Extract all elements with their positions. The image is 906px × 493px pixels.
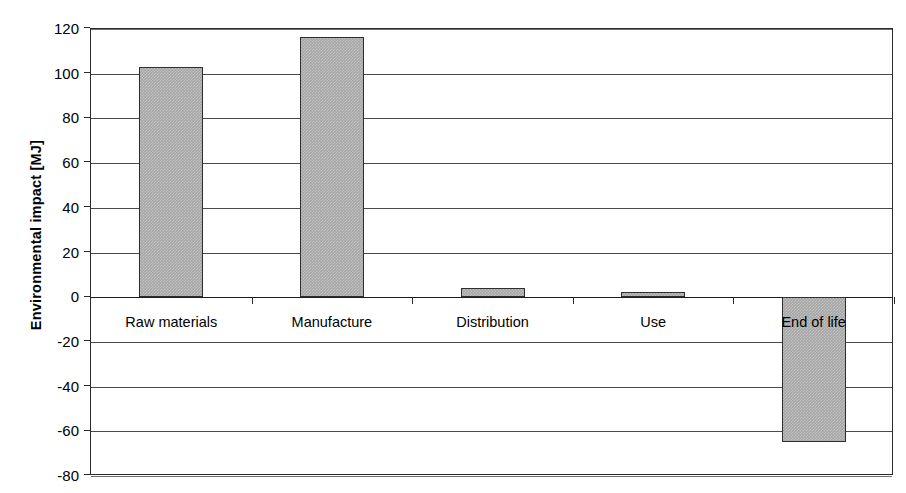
category-tick-mark — [733, 297, 734, 304]
gridline — [91, 163, 892, 164]
y-axis-tick-label: 100 — [9, 65, 79, 80]
y-axis-tick-label: 80 — [9, 110, 79, 125]
gridline — [91, 74, 892, 75]
y-axis-tick-mark — [84, 161, 90, 162]
bar-chart: Environmental impact [MJ] Raw materialsM… — [0, 0, 906, 493]
y-axis-tick-mark — [84, 27, 90, 28]
y-axis-tick-label: -20 — [9, 333, 79, 348]
bar — [139, 67, 203, 297]
y-axis-tick-label: 60 — [9, 155, 79, 170]
y-axis-tick-mark — [84, 474, 90, 475]
gridline — [91, 476, 892, 477]
bar — [300, 37, 364, 297]
category-label: Raw materials — [125, 315, 217, 330]
gridline — [91, 253, 892, 254]
bar — [461, 288, 525, 297]
bar — [621, 292, 685, 298]
y-axis-tick-label: 20 — [9, 244, 79, 259]
category-tick-mark — [573, 297, 574, 304]
gridline — [91, 431, 892, 432]
category-label: End of life — [781, 315, 846, 330]
y-axis-tick-label: -60 — [9, 423, 79, 438]
gridline — [91, 118, 892, 119]
category-label: Use — [640, 315, 666, 330]
y-axis-tick-mark — [84, 251, 90, 252]
y-axis-tick-mark — [84, 117, 90, 118]
plot-area: Raw materialsManufactureDistributionUseE… — [90, 28, 893, 475]
y-axis-tick-mark — [84, 340, 90, 341]
zero-axis-line — [91, 297, 892, 298]
y-axis-tick-label: -40 — [9, 378, 79, 393]
category-label: Manufacture — [292, 315, 373, 330]
category-tick-mark — [252, 297, 253, 304]
category-tick-mark — [412, 297, 413, 304]
y-axis-tick-mark — [84, 296, 90, 297]
category-label: Distribution — [456, 315, 529, 330]
y-axis-tick-label: 0 — [9, 289, 79, 304]
gridline — [91, 387, 892, 388]
y-axis-tick-label: -80 — [9, 468, 79, 483]
y-axis-tick-label: 40 — [9, 199, 79, 214]
y-axis-tick-mark — [84, 385, 90, 386]
category-tick-mark — [894, 297, 895, 304]
y-axis-tick-mark — [84, 72, 90, 73]
gridline — [91, 208, 892, 209]
y-axis-tick-label: 120 — [9, 21, 79, 36]
gridline — [91, 29, 892, 30]
y-axis-tick-mark — [84, 430, 90, 431]
y-axis-tick-mark — [84, 206, 90, 207]
gridline — [91, 342, 892, 343]
